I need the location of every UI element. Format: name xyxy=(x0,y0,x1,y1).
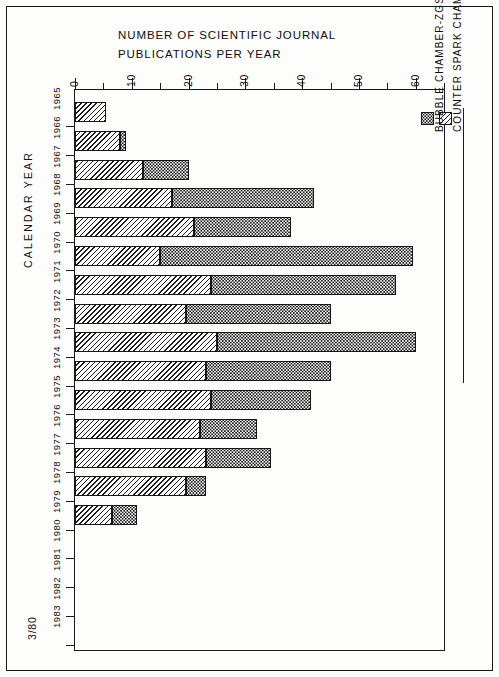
bar-segment xyxy=(206,448,271,468)
legend-label: BUBBLE CHAMBER-ZGS xyxy=(434,0,445,132)
bar-segment xyxy=(206,361,331,381)
bar-segment xyxy=(172,188,314,208)
bar-segment xyxy=(75,102,106,122)
bar-segment xyxy=(75,505,112,525)
bar-segment xyxy=(186,476,206,496)
bar-segment xyxy=(75,131,120,151)
bar-segment xyxy=(112,505,138,525)
figure-page: NUMBER OF SCIENTIFIC JOURNAL PUBLICATION… xyxy=(0,0,499,677)
bar-segment xyxy=(75,246,160,266)
bar-segment xyxy=(75,448,206,468)
bar-segment xyxy=(143,160,188,180)
bar-segment xyxy=(120,131,126,151)
footnote-date: 3/80 xyxy=(26,616,38,640)
bar-segment xyxy=(160,246,413,266)
bar-segment xyxy=(75,332,217,352)
bar-segment xyxy=(75,390,211,410)
bar-segment xyxy=(194,217,291,237)
legend-swatch xyxy=(421,112,434,125)
bar-segment xyxy=(211,390,310,410)
bar-segment xyxy=(75,304,186,324)
bar-segment xyxy=(75,188,172,208)
legend: COUNTER SPARK CHAMBER-ZGSBUBBLE CHAMBER-… xyxy=(417,108,493,383)
legend-label: COUNTER SPARK CHAMBER-ZGS xyxy=(452,0,463,132)
bar-segment xyxy=(75,160,143,180)
bar-segment xyxy=(75,361,206,381)
legend-divider xyxy=(463,108,464,383)
bar-segment xyxy=(211,275,396,295)
bar-segment xyxy=(186,304,331,324)
bar-segment xyxy=(75,419,200,439)
bar-segment xyxy=(75,476,186,496)
bar-segment xyxy=(217,332,416,352)
bar-segment xyxy=(75,275,211,295)
bar-segment xyxy=(75,217,194,237)
bar-segment xyxy=(200,419,257,439)
